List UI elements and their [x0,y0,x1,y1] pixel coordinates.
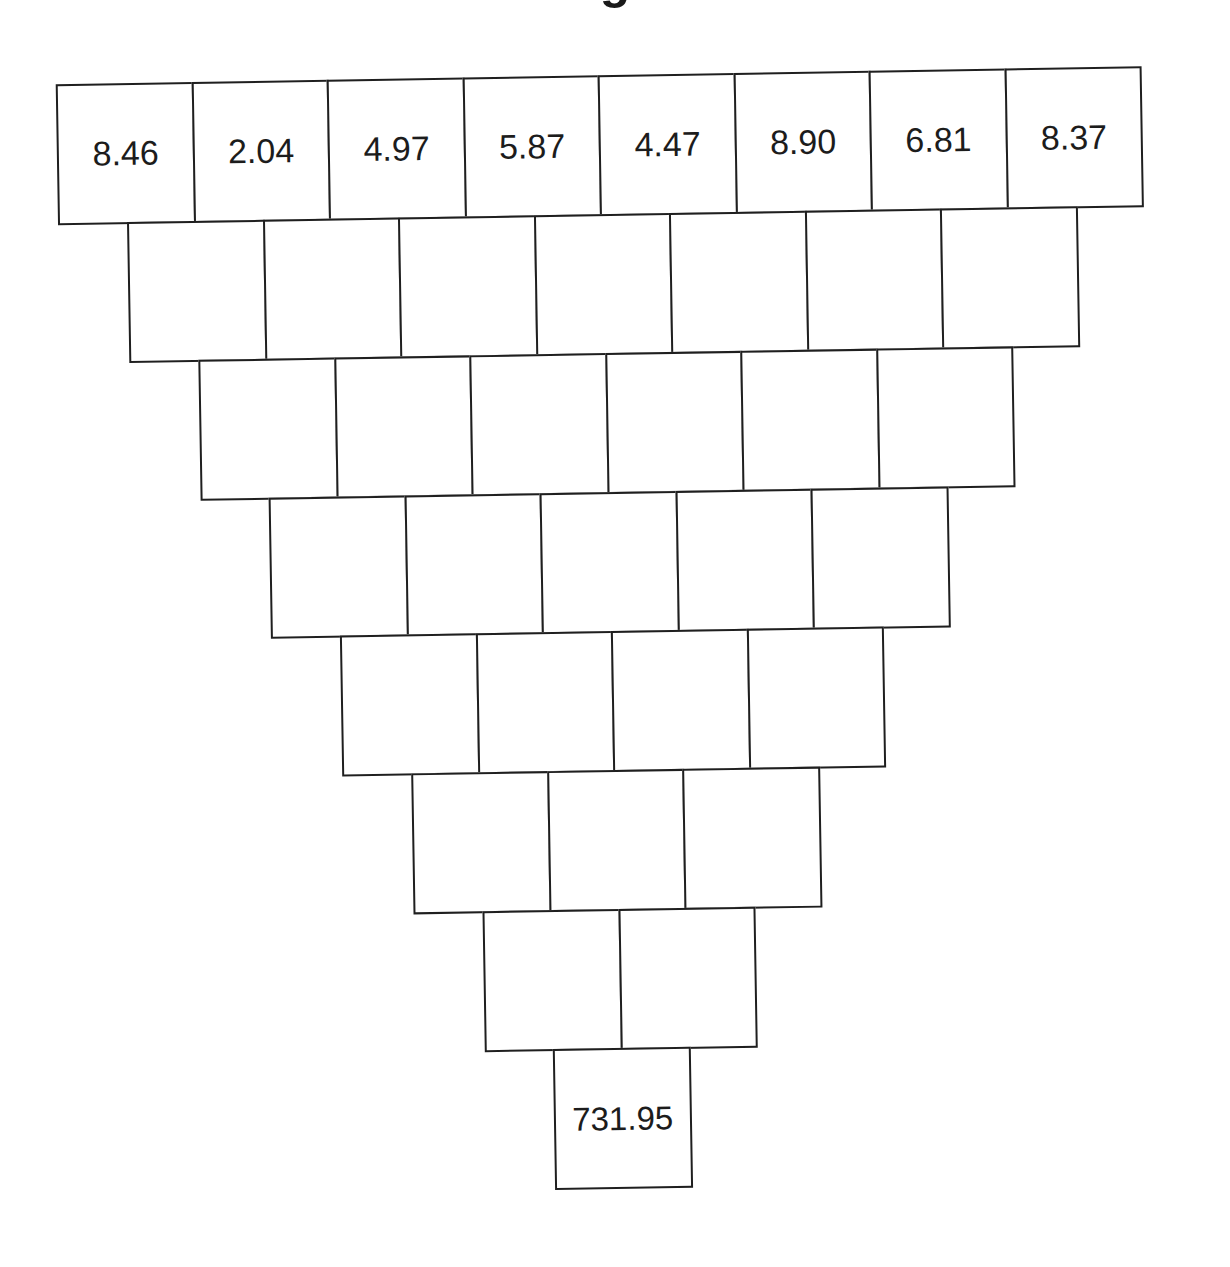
pyramid-cell[interactable]: 8.37 [1004,66,1144,209]
pyramid-row-4 [269,486,949,638]
pyramid-cell-empty[interactable] [618,907,758,1050]
pyramid-cell-empty[interactable] [262,218,402,361]
pyramid-cell-empty[interactable] [482,909,622,1052]
pyramid-cell[interactable]: 8.46 [56,82,196,225]
pyramid-cell-empty[interactable] [398,215,538,358]
pyramid-row-6 [411,767,820,915]
pyramid-row-5 [340,627,884,777]
pyramid-result-cell[interactable]: 731.95 [553,1047,693,1190]
pyramid-cell-empty[interactable] [127,220,267,363]
pyramid-cell[interactable]: 6.81 [869,68,1009,211]
pyramid-cell-empty[interactable] [533,213,673,356]
pyramid-cell-empty[interactable] [675,489,815,632]
pyramid-cell[interactable]: 8.90 [733,71,873,214]
pyramid-cell[interactable]: 4.97 [327,77,467,220]
pyramid-cell[interactable]: 2.04 [191,80,331,223]
pyramid-cell-empty[interactable] [404,493,544,636]
pyramid-cell-empty[interactable] [198,358,338,501]
pyramid-cell-empty[interactable] [682,767,822,910]
pyramid-row-7 [482,907,755,1052]
pyramid-cell-empty[interactable] [340,633,480,776]
pyramid-cell-empty[interactable] [469,353,609,496]
number-pyramid: 8.46 2.04 4.97 5.87 4.47 8.90 6.81 8.37 [0,0,1230,1267]
pyramid-cell-empty[interactable] [611,629,751,772]
pyramid-cell-empty[interactable] [876,346,1016,489]
pyramid-cell-empty[interactable] [804,209,944,352]
pyramid-row-8: 731.95 [553,1047,691,1190]
pyramid-cell-empty[interactable] [334,355,474,498]
pyramid-cell-empty[interactable] [940,206,1080,349]
pyramid-cell-empty[interactable] [605,351,745,494]
pyramid-cell-empty[interactable] [411,771,551,914]
pyramid-cell-empty[interactable] [540,491,680,634]
pyramid-cell-empty[interactable] [746,627,886,770]
pyramid-cell-empty[interactable] [669,211,809,354]
pyramid-cell-empty[interactable] [475,631,615,774]
pyramid-cell-empty[interactable] [740,349,880,492]
pyramid-cell[interactable]: 4.47 [598,73,738,216]
pyramid-row-2 [127,206,1078,363]
pyramid-row-3 [198,346,1013,500]
pyramid-cell-empty[interactable] [269,495,409,638]
pyramid-cell[interactable]: 5.87 [462,75,602,218]
pyramid-cell-empty[interactable] [811,486,951,629]
pyramid-row-1: 8.46 2.04 4.97 5.87 4.47 8.90 6.81 8.37 [56,66,1142,225]
pyramid-cell-empty[interactable] [547,769,687,912]
